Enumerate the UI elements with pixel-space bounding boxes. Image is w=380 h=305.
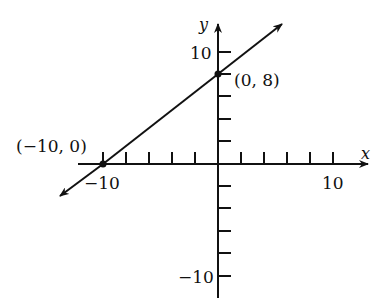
x-axis-label: x <box>361 144 370 163</box>
point-label-neg10-0: (−10, 0) <box>16 136 87 156</box>
y-tick-label-neg10: −10 <box>178 267 214 287</box>
coordinate-plane: y x 10 −10 −10 10 (−10, 0) (0, 8) <box>0 0 380 305</box>
y-axis-label: y <box>198 15 209 34</box>
x-tick-label-neg10: −10 <box>84 173 120 193</box>
point-label-0-8: (0, 8) <box>234 70 280 90</box>
point-0-8 <box>215 71 222 78</box>
graph-svg: y x 10 −10 −10 10 (−10, 0) (0, 8) <box>0 0 380 305</box>
point-neg10-0 <box>100 161 107 168</box>
x-tick-label-10: 10 <box>322 173 344 193</box>
y-tick-label-10: 10 <box>190 43 212 63</box>
